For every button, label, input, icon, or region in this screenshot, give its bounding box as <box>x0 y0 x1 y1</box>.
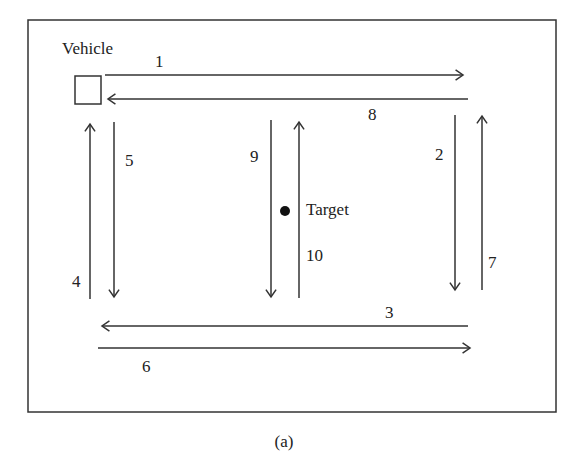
arrow-label: 3 <box>385 303 394 322</box>
arrow-label: 5 <box>125 151 134 170</box>
arrow-8: 8 <box>108 94 468 124</box>
arrow-label: 7 <box>488 253 497 272</box>
arrow-label: 10 <box>306 246 323 265</box>
target-label: Target <box>306 200 349 219</box>
vehicle-box <box>75 76 101 104</box>
arrow-2: 2 <box>435 115 460 290</box>
arrow-label: 4 <box>72 272 81 291</box>
arrow-5: 5 <box>109 122 134 297</box>
arrow-7: 7 <box>477 116 497 290</box>
arrow-label: 6 <box>142 357 151 376</box>
arrow-6: 6 <box>98 343 470 376</box>
arrow-1: 1 <box>105 52 463 80</box>
arrow-3: 3 <box>102 303 468 331</box>
arrow-label: 2 <box>435 145 444 164</box>
path-diagram: Vehicle Target 12345678910 (a) <box>0 0 568 451</box>
diagram-frame <box>28 20 556 412</box>
arrow-label: 8 <box>368 105 377 124</box>
vehicle-label: Vehicle <box>62 39 113 58</box>
arrow-9: 9 <box>250 120 276 297</box>
figure-caption: (a) <box>275 432 294 451</box>
arrow-4: 4 <box>72 124 95 299</box>
arrow-label: 9 <box>250 147 259 166</box>
target-dot-icon <box>280 206 290 216</box>
arrow-label: 1 <box>155 52 164 71</box>
